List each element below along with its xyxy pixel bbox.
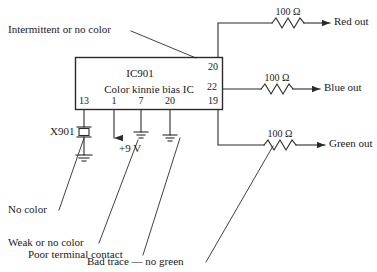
pin-label-1: 1 [112, 96, 117, 106]
wire-green [218, 110, 264, 146]
wire-red [218, 23, 272, 58]
resistor-value-green: 100 Ω [268, 129, 293, 139]
resistor-red [272, 18, 304, 28]
annotation-intermittent: Intermittent or no color [8, 24, 111, 35]
ic-name: IC901 [126, 68, 154, 79]
resistor-value-blue: 100 Ω [265, 73, 290, 83]
ground-pin7 [134, 132, 148, 138]
pin-label-20-right: 20 [208, 62, 218, 72]
resistor-blue [261, 84, 293, 94]
supply-label-9v: +9 V [119, 143, 141, 154]
annotation-weak-color: Weak or no color [8, 237, 84, 248]
leader-weak [99, 140, 138, 243]
ic-description: Color kinnie bias IC [104, 84, 194, 95]
pin-label-7: 7 [139, 96, 144, 106]
leader-no-color [59, 138, 84, 210]
resistor-green [264, 140, 296, 150]
crystal-body [79, 129, 89, 136]
output-label-red: Red out [334, 16, 369, 27]
leader-intermittent [131, 31, 196, 58]
annotation-no-color: No color [8, 204, 47, 215]
resistor-value-red: 100 Ω [276, 7, 301, 17]
schematic-canvas: IC901 Color kinnie bias IC 13 1 7 20 19 … [0, 0, 377, 272]
ground-pin20 [163, 135, 177, 141]
pin-label-22-right: 22 [207, 82, 217, 92]
output-label-blue: Blue out [324, 82, 362, 93]
crystal-label-x901: X901 [50, 126, 74, 137]
leader-poor-contact [143, 138, 180, 255]
annotation-bad-trace: Bad trace — no green [87, 256, 184, 267]
ground-x901 [76, 155, 92, 161]
pin-label-20-bottom: 20 [165, 96, 175, 106]
leader-bad-trace [206, 146, 273, 262]
pin-label-13: 13 [79, 96, 89, 106]
pin-label-19: 19 [208, 96, 218, 106]
output-label-green: Green out [329, 138, 373, 149]
